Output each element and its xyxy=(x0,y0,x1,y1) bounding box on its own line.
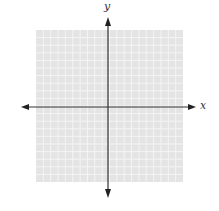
x-axis-left-arrow-icon xyxy=(21,104,29,110)
coordinate-plane xyxy=(0,0,219,211)
grid-lines xyxy=(36,30,183,182)
x-axis-right-arrow-icon xyxy=(188,104,196,110)
y-axis-up-arrow-icon xyxy=(105,17,111,26)
x-axis-label: x xyxy=(200,99,206,112)
y-axis-down-arrow-icon xyxy=(105,189,111,198)
y-axis-label: y xyxy=(104,0,110,13)
